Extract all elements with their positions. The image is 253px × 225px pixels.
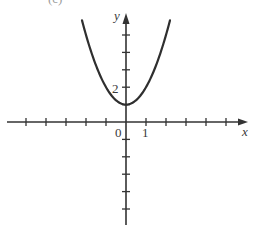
y-tick-label-2: 2	[112, 81, 119, 96]
x-axis	[7, 118, 248, 126]
x-axis-label: x	[241, 124, 248, 139]
x-tick-label-1: 1	[142, 125, 149, 140]
y-axis-arrow-icon	[123, 13, 130, 24]
figure-corner-label: (c)	[48, 0, 62, 6]
y-axis	[122, 13, 130, 225]
y-axis-label: y	[112, 8, 120, 23]
parabola-graph: (c) y x 0 1 2	[0, 0, 253, 225]
origin-label: 0	[115, 125, 122, 140]
